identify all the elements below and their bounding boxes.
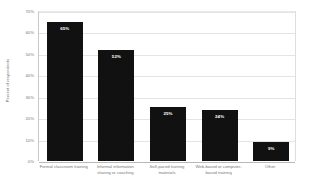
y-axis-tick: 50% [25,51,34,56]
y-axis-tick: 30% [25,94,34,99]
y-axis-tick: 40% [25,73,34,78]
x-axis-category-label: Other [244,164,296,170]
y-axis-title-text: Percent of respondents [6,58,11,101]
bar[interactable]: 9% [253,142,289,161]
y-axis-tick: 20% [25,116,34,121]
bar-slot: 52% [91,12,143,161]
x-axis-category-label: Self-paced training materials [141,164,193,175]
y-axis-tick: 0% [28,159,34,164]
plot-area: 65%52%25%24%9% [38,11,296,161]
bar-value-label: 52% [98,54,134,59]
bar-value-label: 65% [47,26,83,31]
bar-value-label: 25% [150,111,186,116]
bar-slot: 24% [194,12,246,161]
y-axis-tick: 10% [25,137,34,142]
y-axis-tick-labels: 70%60%50%40%30%20%10%0% [16,11,36,161]
bar[interactable]: 65% [47,22,83,161]
axis-baseline [39,162,295,163]
x-axis-category-labels: Formal classroom trainingInformal inform… [38,164,296,196]
bar-value-label: 9% [253,146,289,151]
bar-slot: 25% [142,12,194,161]
y-axis-tick: 60% [25,30,34,35]
bar[interactable]: 25% [150,107,186,161]
bar[interactable]: 24% [202,110,238,161]
x-axis-category-label: Informal information sharing or coaching [90,164,142,175]
bar-slot: 65% [39,12,91,161]
y-axis-tick: 70% [25,9,34,14]
bar-value-label: 24% [202,114,238,119]
x-axis-category-label: Web-based or computer-based training [193,164,245,175]
bar-chart: Percent of respondents 70%60%50%40%30%20… [0,0,313,196]
y-axis-title: Percent of respondents [0,0,16,160]
x-axis-category-label: Formal classroom training [38,164,90,170]
bar-slot: 9% [245,12,297,161]
bars-layer: 65%52%25%24%9% [39,12,295,161]
bar[interactable]: 52% [98,50,134,161]
